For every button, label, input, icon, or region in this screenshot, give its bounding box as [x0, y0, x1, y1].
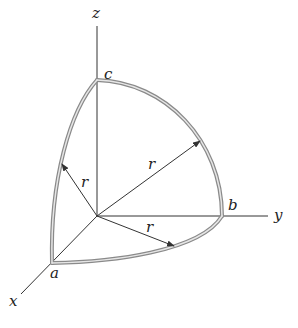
- radius-arrow-xy: [97, 216, 174, 246]
- octant-diagram: z y x c b a r r r: [0, 0, 298, 328]
- radius-label-yz: r: [148, 157, 155, 172]
- z-axis-label: z: [92, 6, 100, 21]
- radius-label-xy: r: [146, 220, 153, 235]
- point-c-label: c: [104, 67, 112, 82]
- point-a-label: a: [50, 266, 59, 281]
- radius-arrow-yz: [97, 141, 200, 216]
- radius-arrow-xz: [62, 164, 97, 216]
- y-axis-label: y: [274, 208, 282, 223]
- x-axis-label: x: [9, 294, 17, 309]
- radius-label-xz: r: [81, 175, 88, 190]
- x-axis: [21, 216, 97, 294]
- point-b-label: b: [228, 198, 238, 213]
